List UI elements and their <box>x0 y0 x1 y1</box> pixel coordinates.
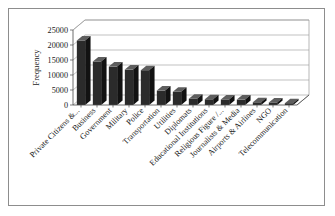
bar-front-4 <box>141 70 149 105</box>
bar-7 <box>189 94 203 105</box>
gridlines <box>73 20 309 105</box>
bar-side-0 <box>85 36 90 105</box>
x-category-label-0: Private Citizens &... <box>28 106 81 159</box>
y-axis-title-text: Frequency <box>31 49 41 86</box>
y-tick-label-2: 10000 <box>48 71 68 80</box>
bar-12 <box>269 98 283 105</box>
y-tick-label-3: 15000 <box>48 56 68 65</box>
y-axis-tick-labels: 0500010000150002000025000 <box>48 26 68 110</box>
bar-front-3 <box>125 70 133 105</box>
bar-front-1 <box>93 62 101 106</box>
bar-front-10 <box>237 100 245 105</box>
bar-6 <box>173 87 187 105</box>
bar-front-6 <box>173 92 181 105</box>
bar-front-8 <box>205 99 213 105</box>
y-tick-label-0: 0 <box>64 101 68 110</box>
y-tick-label-4: 20000 <box>48 41 68 50</box>
bar-side-1 <box>101 57 106 105</box>
bar-8 <box>205 95 219 105</box>
x-axis-depth-line <box>297 95 309 105</box>
bar-1 <box>93 57 107 105</box>
x-axis-category-labels: Private Citizens &...BusinessGovernmentM… <box>28 105 289 167</box>
bar-9 <box>221 95 235 105</box>
y-tick-label-5: 25000 <box>48 26 68 35</box>
bar-side-4 <box>149 66 154 105</box>
bar-2 <box>109 62 123 105</box>
bar-13 <box>285 99 299 105</box>
chart-wall-edge-top <box>73 20 85 30</box>
chart-wall <box>73 20 309 105</box>
bar-0 <box>77 36 91 105</box>
bar-front-11 <box>253 102 261 105</box>
screenshot-root: 0500010000150002000025000 Private Citize… <box>0 0 335 216</box>
y-axis-title: Frequency <box>31 49 41 86</box>
y-tick-label-1: 5000 <box>52 86 68 95</box>
bar-front-5 <box>157 91 165 105</box>
bar-5 <box>157 86 171 105</box>
bar-chart: 0500010000150002000025000 Private Citize… <box>9 9 324 205</box>
bar-front-9 <box>221 99 229 105</box>
bar-11 <box>253 98 267 105</box>
bar-4 <box>141 66 155 105</box>
bar-front-2 <box>109 67 117 105</box>
bar-side-2 <box>117 62 122 105</box>
bar-front-7 <box>189 99 197 105</box>
figure-frame: 0500010000150002000025000 Private Citize… <box>8 8 325 206</box>
bar-10 <box>237 95 251 105</box>
chart-canvas: 0500010000150002000025000 Private Citize… <box>9 9 324 205</box>
bar-3 <box>125 65 139 105</box>
bar-front-0 <box>77 41 85 106</box>
bar-side-3 <box>133 65 138 105</box>
